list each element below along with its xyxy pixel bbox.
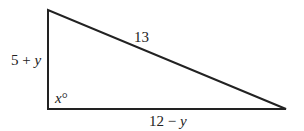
horizontal-leg-label: 12 − y — [149, 113, 187, 129]
vertical-leg-label: 5 + y — [11, 52, 41, 68]
triangle-shape — [48, 10, 286, 109]
hypotenuse-label: 13 — [134, 29, 149, 45]
diagram-canvas: 13 5 + y 12 − y x° — [0, 0, 304, 131]
triangle-figure: 13 5 + y 12 − y x° — [0, 0, 304, 131]
angle-label: x° — [54, 90, 68, 106]
